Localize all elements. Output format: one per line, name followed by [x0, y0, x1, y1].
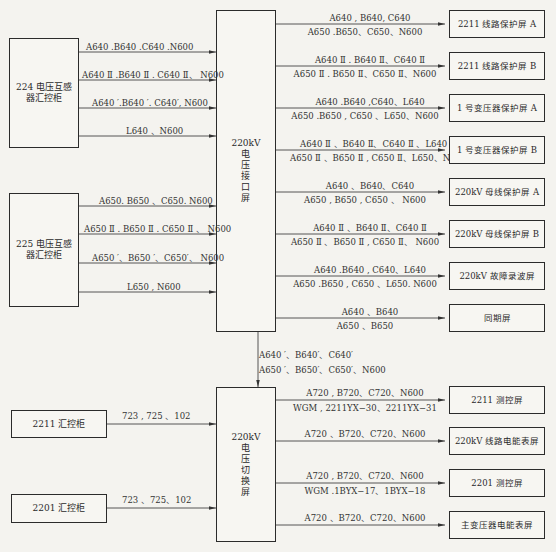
switch-panel-voltage: 220kV [231, 432, 260, 443]
interface-panel-char: 接 [241, 171, 250, 182]
switch-panel-char: 压 [241, 454, 250, 465]
interface-panel-voltage: 220kV [231, 138, 260, 149]
interface-output-top-label: A640 .B640 , C640、L640 [300, 265, 440, 275]
c2201-cabinet-box: 2201 汇控柜 [11, 494, 107, 523]
interface-output-top-label: A640 , B640, C640 [300, 13, 440, 23]
switch-output-bottom-label: WGM , 2211YX−30、2211YX−31 [285, 403, 445, 413]
input-225-label: A650. B650 、C650. N600 [99, 196, 213, 206]
switch-panel-char: 换 [241, 476, 250, 487]
interface-output-bottom-label: A650 、B650 [290, 321, 440, 331]
pt224-cabinet-box: 224 电压互感器汇控柜 [9, 38, 79, 148]
c2211-cabinet-box: 2211 汇控柜 [11, 410, 107, 438]
switch-output-top-label: A720 、B720、C720、N600 [290, 429, 440, 439]
interface-output-bottom-label: A650 Ⅱ . B650 Ⅱ、C650 Ⅱ、N600 [290, 69, 440, 79]
target-panel-box: 220kV 母线保护屏 A [449, 178, 545, 206]
interface-panel-char: 电 [241, 149, 250, 160]
voltage-interface-panel-label: 220kV 电 压 接 口 屏 [231, 138, 260, 204]
c2211-cabinet-label: 2211 汇控柜 [33, 419, 86, 430]
interface-output-top-label: A640 、B640、C640 [300, 181, 440, 191]
input-225-label: A650 Ⅱ . B650 Ⅱ . C650 Ⅱ 、 N600 [84, 224, 231, 234]
switch-panel-char: 电 [241, 443, 250, 454]
target-panel-box: 220kV 故障录波屏 [449, 262, 545, 290]
interface-output-bottom-label: A650 .B650 , C650 、L650、N600 [290, 111, 440, 121]
switch-panel-char: 屏 [241, 487, 250, 498]
target-panel-box: 2211 线路保护屏 A [449, 10, 545, 38]
switch-panel-char: 切 [241, 465, 250, 476]
interface-output-top-label: A640 Ⅱ . B640 Ⅱ、C640 Ⅱ [300, 55, 440, 65]
voltage-switch-panel-label: 220kV 电 压 切 换 屏 [231, 432, 260, 498]
target-panel-box: 2211 线路保护屏 B [449, 52, 545, 80]
interface-output-bottom-label: A650 , B650 , C650 、 N600 [290, 195, 440, 205]
interface-output-top-label: A640 .B640 ,C640、L640 [300, 97, 440, 107]
target-panel-box: 2211 测控屏 [449, 386, 545, 414]
interface-panel-char: 压 [241, 160, 250, 171]
voltage-switch-panel-box: 220kV 电 压 切 换 屏 [216, 387, 276, 542]
pt225-cabinet-label: 225 电压互感器汇控柜 [14, 239, 74, 261]
interface-panel-char: 屏 [241, 193, 250, 204]
interface-to-switch-label-2: A650 ′、B650′、C650′、N600 [259, 365, 386, 375]
target-panel-box: 2201 测控屏 [449, 469, 545, 497]
switch-output-top-label: A720 、B720、C720、N600 [290, 513, 440, 523]
input-224-label: A640 ′.B640 ′. C640′, N600 [92, 98, 208, 108]
pt225-cabinet-box: 225 电压互感器汇控柜 [9, 193, 79, 307]
c2201-wire-label: 723 、725、102 [122, 495, 191, 505]
interface-panel-char: 口 [241, 182, 250, 193]
interface-output-bottom-label: A650 .B650 , C650 、L650. N600 [290, 279, 440, 289]
switch-output-top-label: A720 , B720、C720、N600 [290, 388, 440, 398]
target-panel-box: 同期屏 [449, 304, 545, 332]
target-panel-box: 220kV 线路电能表屏 [449, 427, 545, 455]
input-225-label: L650 , N600 [127, 282, 181, 292]
interface-output-top-label: A640 Ⅱ 、B640 Ⅱ、C640 Ⅱ [300, 223, 440, 233]
voltage-interface-panel-box: 220kV 电 压 接 口 屏 [216, 10, 276, 332]
interface-to-switch-label-1: A640 ′、B640′、C640′ [259, 350, 353, 360]
c2201-cabinet-label: 2201 汇控柜 [33, 503, 86, 514]
interface-output-bottom-label: A650 .B650、C650、N600 [290, 27, 440, 37]
target-panel-box: 220kV 母线保护屏 B [449, 220, 545, 248]
target-panel-box: 1 号变压器保护屏 A [449, 94, 545, 122]
pt224-cabinet-label: 224 电压互感器汇控柜 [14, 82, 74, 104]
input-225-label: A650 ′、B650 ′、C650′、 N600 [92, 253, 224, 263]
interface-output-top-label: A640 Ⅱ 、B640 Ⅱ、C640 Ⅱ 、L640 [300, 139, 440, 149]
input-224-label: A640 Ⅱ .B640 Ⅱ . C640 Ⅱ、 N600 [82, 70, 224, 80]
input-224-label: L640 、N600 [126, 126, 183, 136]
input-224-label: A640 .B640 .C640 .N600 [86, 42, 193, 52]
switch-output-top-label: A720 , B720、C720、N600 [290, 471, 440, 481]
target-panel-box: 1 号变压器保护屏 B [449, 136, 545, 164]
c2211-wire-label: 723 , 725 、102 [122, 411, 190, 421]
interface-output-bottom-label: A650 Ⅱ 、B650 Ⅱ , C650 Ⅱ、L650、N600 [290, 153, 440, 163]
interface-output-bottom-label: A650 Ⅱ 、B650 Ⅱ , C650 Ⅱ、 N600 [290, 237, 440, 247]
switch-output-bottom-label: WGM .1BYX−17、1BYX−18 [285, 486, 445, 496]
target-panel-box: 主变压器电能表屏 [449, 511, 545, 539]
interface-output-top-label: A640 、B640 [300, 307, 440, 317]
